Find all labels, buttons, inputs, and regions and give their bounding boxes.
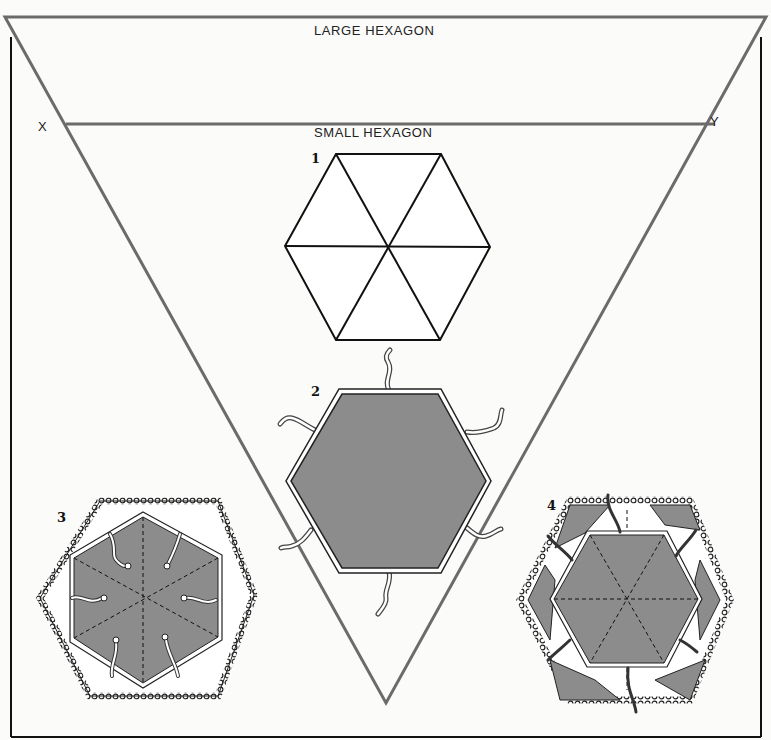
step-1-number: 1 <box>311 151 320 166</box>
step-3-number: 3 <box>57 510 66 525</box>
step-4-number: 4 <box>547 498 556 513</box>
point-x-label: X <box>38 119 47 134</box>
point-y-label: Y <box>710 114 719 129</box>
small-hexagon-label: SMALL HEXAGON <box>314 125 433 140</box>
step-4-hexagon <box>520 495 730 712</box>
hexagon-diagram <box>0 0 771 740</box>
step-3-hexagon <box>40 501 254 696</box>
step-2-number: 2 <box>311 384 320 399</box>
step-1-hexagon <box>285 154 490 340</box>
large-hexagon-label: LARGE HEXAGON <box>314 23 435 38</box>
